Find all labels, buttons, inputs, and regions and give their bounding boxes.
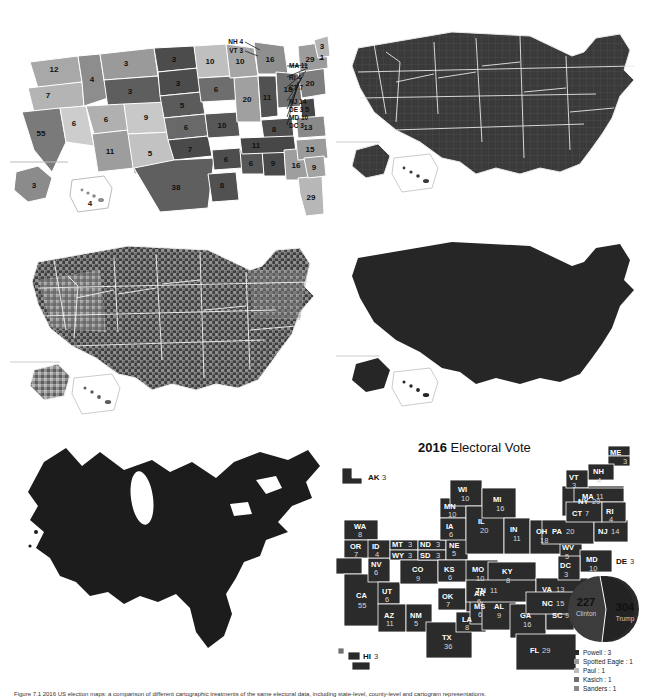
cartogram-title-rest: Electoral Vote [447,440,531,455]
pie-clinton-label: Clinton [576,610,597,617]
svg-text:6: 6 [448,573,452,582]
svg-text:7: 7 [354,550,358,559]
state-label-NC: 15 [306,145,315,154]
svg-text:3: 3 [564,570,568,579]
svg-text:4: 4 [375,550,379,559]
svg-text:55: 55 [358,601,366,610]
svg-text:SD: SD [420,551,431,560]
county-choropleth-alaska [30,364,70,400]
panel-county-choropleth-map [8,240,328,430]
cartogram-label-SD: SD3 [420,551,440,560]
electoral-cartogram-svg: 2016 Electoral Vote AK 3 HI 3 [330,436,654,686]
svg-text:3: 3 [623,457,627,466]
svg-text:TN: TN [476,586,486,595]
svg-text:13: 13 [556,585,564,594]
svg-text:KY: KY [502,567,512,576]
svg-text:5: 5 [414,619,418,628]
legend-swatch-paul [574,668,579,673]
state-label-AK: 3 [32,181,37,190]
state-label-NE: 5 [180,101,185,110]
cartogram-outlier-AK-value: 3 [382,473,386,482]
population-cartogram-svg [20,436,330,666]
svg-text:4: 4 [597,476,601,485]
svg-text:WY: WY [392,551,404,560]
svg-text:5: 5 [565,552,569,561]
state-label-MO: 10 [218,121,227,130]
cartogram-label-WY: WY3 [392,551,412,560]
state-label-WI: 10 [236,57,245,66]
svg-text:8: 8 [465,623,469,632]
svg-text:VA: VA [542,585,552,594]
svg-text:OH: OH [536,527,547,536]
legend-label-powell: Powell : 3 [583,649,612,656]
svg-text:29: 29 [542,646,550,655]
svg-text:MT: MT [392,540,403,549]
legend-label-paul: Paul : 1 [583,667,605,674]
cartogram-title-year: 2016 [418,440,447,455]
svg-text:20: 20 [480,526,488,535]
cartogram-outlier-AK-abbr: AK [368,473,380,482]
solid-map-contiguous [352,242,634,384]
state-label-NM: 5 [148,149,153,158]
state-label-WV: 5 [305,105,310,114]
cartogram-legend: Powell : 3 Spotted Eagle : 1 Paul : 1 Ka… [574,649,633,692]
state-label-UT: 6 [104,115,109,124]
cartogram-label-MT: MT3 [392,540,412,549]
state-label-FL: 29 [307,193,316,202]
svg-text:AL: AL [494,602,504,611]
state-label-ND: 3 [172,55,177,64]
svg-text:NH: NH [593,467,604,476]
svg-text:3: 3 [572,481,576,490]
callout-NH: NH 4 [228,38,243,45]
cartogram-speck-1 [34,530,38,534]
state-label-HI: 4 [88,199,93,208]
svg-text:6: 6 [385,595,389,604]
svg-text:6: 6 [478,610,482,619]
svg-text:36: 36 [444,642,452,651]
svg-text:TX: TX [442,633,452,642]
state-label-AL: 9 [271,159,276,168]
cartogram-outlier-DE-value: 3 [630,557,634,566]
state-label-ME-top: 3 [320,42,325,51]
state-label-IL: 20 [243,95,252,104]
svg-text:MI: MI [493,495,501,504]
cartogram-label-MA: MA11 [582,492,604,501]
svg-text:5: 5 [452,549,456,558]
pie-clinton-value: 227 [577,596,595,608]
cartogram-label-AZ: AZ11 [384,611,394,628]
svg-text:7: 7 [446,600,450,609]
state-label-MS: 6 [249,159,254,168]
svg-text:9: 9 [497,611,501,620]
state-label-MI: 16 [266,55,275,64]
cartogram-label-CA: CA55 [356,591,367,610]
svg-text:11: 11 [513,534,521,543]
state-HI [81,189,104,202]
pie-trump-value: 304 [616,601,635,613]
panel-state-electoral-map: 12 7 55 6 4 3 3 6 11 9 5 3 3 5 6 7 38 10… [8,22,328,222]
figure-caption: Figure 7.1 2016 US election maps: a comp… [14,690,644,699]
state-label-KY: 8 [272,125,277,134]
svg-text:16: 16 [496,504,504,513]
svg-text:4: 4 [609,515,613,524]
state-label-CO: 9 [144,113,149,122]
svg-text:CA: CA [356,591,367,600]
svg-text:16: 16 [523,620,531,629]
county-choropleth-svg [8,240,328,430]
state-label-ME-bottom: 1 [320,53,325,62]
county-outline-alaska [352,144,390,178]
cartogram-cell-AK: AK 3 [342,468,386,484]
legend-swatch-powell [574,650,579,655]
svg-text:CT: CT [572,509,582,518]
state-label-TN: 11 [252,141,261,150]
svg-text:WV: WV [562,543,574,552]
state-label-CA: 55 [37,129,46,138]
svg-text:18: 18 [540,536,548,545]
svg-text:GA: GA [520,611,532,620]
state-label-NV: 6 [72,119,77,128]
svg-text:10: 10 [476,574,484,583]
svg-text:3: 3 [408,551,412,560]
state-label-IA: 6 [214,85,219,94]
svg-text:3: 3 [408,540,412,549]
svg-text:3: 3 [436,540,440,549]
solid-map-alaska [352,358,390,392]
